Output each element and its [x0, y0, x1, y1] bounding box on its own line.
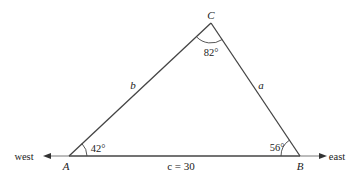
vertex-label-a: A [62, 160, 70, 172]
east-arrow [300, 153, 327, 159]
angle-label-a: 42° [91, 143, 106, 154]
direction-label-west: west [14, 151, 33, 162]
side-label-a: a [258, 79, 264, 91]
side-b [69, 23, 211, 156]
angle-label-b: 56° [270, 142, 285, 153]
angle-arc-a [82, 144, 87, 156]
triangle-diagram: C A B 82° 42° 56° b a c = 30 west east [0, 0, 361, 180]
angle-arc-c [196, 37, 222, 43]
direction-label-east: east [329, 151, 345, 162]
vertex-label-b: B [297, 160, 304, 172]
side-label-c: c = 30 [167, 160, 195, 172]
side-a [211, 23, 300, 156]
side-label-b: b [130, 79, 136, 91]
angle-label-c: 82° [204, 47, 219, 58]
vertex-label-c: C [207, 9, 215, 21]
west-arrow [43, 153, 69, 159]
